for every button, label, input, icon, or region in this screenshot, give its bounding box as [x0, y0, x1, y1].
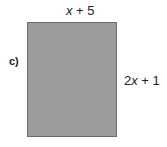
rectangle	[27, 22, 117, 137]
right-side-label: 2x + 1	[124, 73, 160, 88]
part-label: c)	[9, 55, 19, 67]
right-side-constant: + 1	[138, 73, 160, 88]
top-side-constant: + 5	[73, 3, 95, 18]
top-side-label: x + 5	[66, 3, 95, 18]
